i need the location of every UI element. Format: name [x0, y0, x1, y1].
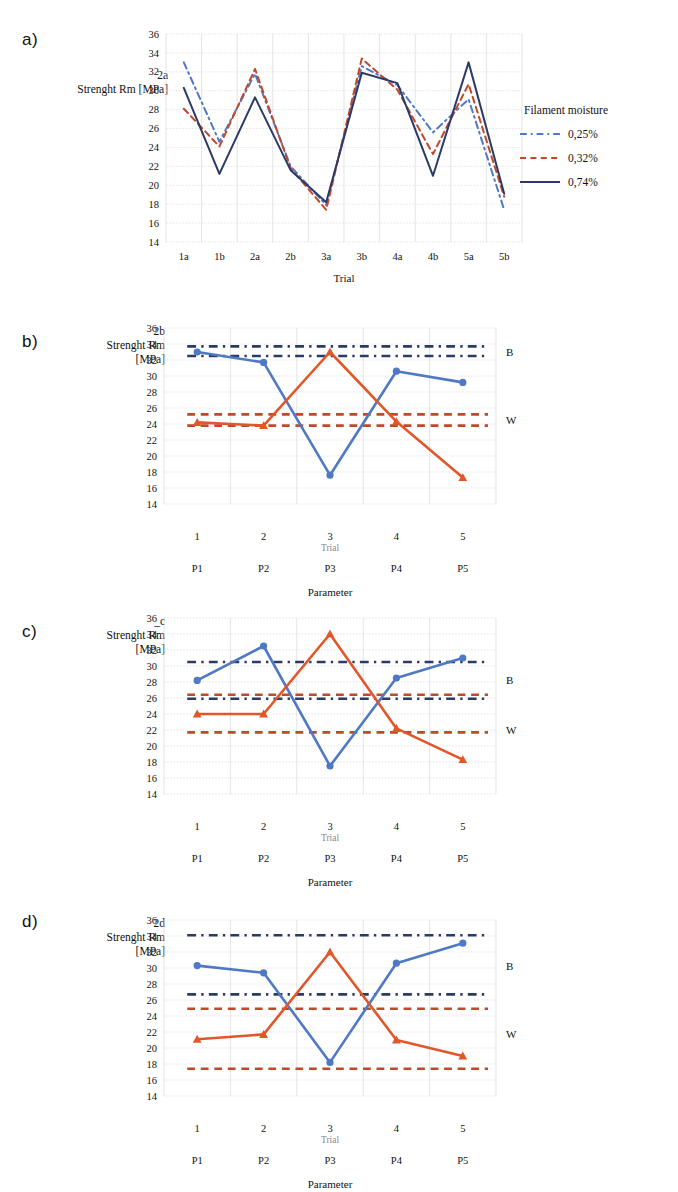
y-tick-label: 18 [149, 199, 160, 210]
legend-swatch-line [518, 152, 562, 164]
figure-panel-a: a) 2aStrenght Rm [MPa] 14161820222426283… [0, 0, 678, 310]
data-point-marker [260, 359, 267, 366]
x-tick-label-secondary: P3 [324, 1155, 335, 1166]
legend-items: 0,25%0,32%0,74% [518, 128, 670, 188]
y-tick-label: 14 [147, 499, 158, 510]
legend-item-label: 0,25% [568, 128, 598, 140]
panel-a-chart: 1416182022242628303234361a1b2a2b3a3b4a4b… [130, 28, 530, 302]
x-tick-label-secondary: P4 [391, 853, 403, 864]
x-axis-secondary-title: Trial [321, 1135, 339, 1145]
data-point-marker [326, 1059, 333, 1066]
annotation-label-B: B [506, 346, 513, 358]
y-tick-label: 20 [147, 1043, 158, 1054]
y-tick-label: 32 [147, 645, 158, 656]
x-tick-label: 1 [195, 531, 200, 542]
x-tick-label: 4a [392, 251, 402, 262]
x-tick-label: 4 [394, 531, 400, 542]
data-point-marker [326, 948, 335, 956]
x-tick-label-secondary: P3 [324, 563, 335, 574]
y-tick-label: 32 [149, 66, 160, 77]
y-tick-label: 22 [147, 725, 158, 736]
legend-item-032%: 0,32% [518, 152, 670, 164]
data-point-marker [393, 674, 400, 681]
y-tick-label: 14 [147, 789, 158, 800]
y-tick-label: 30 [147, 963, 158, 974]
y-tick-label: 34 [147, 931, 158, 942]
x-tick-label-secondary: P5 [457, 1155, 468, 1166]
x-tick-label-secondary: P3 [324, 853, 335, 864]
y-tick-label: 26 [147, 403, 158, 414]
panel-d-chart: 141618202224262830323436BW12345TrialP1P2… [128, 914, 548, 1192]
legend-swatch-line [518, 128, 562, 140]
x-tick-label: 3 [327, 531, 332, 542]
y-tick-label: 36 [147, 915, 158, 926]
data-point-marker [326, 762, 333, 769]
panel-a-letter: a) [22, 30, 38, 50]
x-axis-title: Parameter [308, 586, 353, 598]
figure-panel-d: d) 2dStrenght Rm[MPa] 141618202224262830… [0, 890, 678, 1180]
legend-item-label: 0,32% [568, 152, 598, 164]
x-tick-label: 2 [261, 1123, 266, 1134]
annotation-label-W: W [506, 1028, 517, 1040]
y-tick-label: 32 [147, 355, 158, 366]
y-tick-label: 20 [147, 741, 158, 752]
x-tick-label: 2b [285, 251, 296, 262]
x-tick-label: 4 [394, 821, 400, 832]
annotation-label-B: B [506, 674, 513, 686]
data-point-marker [194, 348, 201, 355]
y-tick-label: 16 [147, 1075, 158, 1086]
y-tick-label: 22 [147, 1027, 158, 1038]
x-tick-label: 4b [428, 251, 439, 262]
x-tick-label: 2 [261, 531, 266, 542]
data-point-marker [260, 969, 267, 976]
series-line-B [197, 943, 463, 1062]
y-tick-label: 16 [149, 218, 160, 229]
x-axis-secondary-title: Trial [321, 833, 339, 843]
x-tick-label-secondary: P4 [391, 563, 403, 574]
figure-panel-b: b) 2bStrenght Rm[MPa] 141618202224262830… [0, 310, 678, 600]
y-tick-label: 28 [149, 104, 160, 115]
x-tick-label-secondary: P2 [258, 563, 269, 574]
panel-c-chart: 141618202224262830323436BW12345TrialP1P2… [128, 612, 548, 894]
data-point-marker [194, 677, 201, 684]
y-tick-label: 28 [147, 979, 158, 990]
y-tick-label: 26 [147, 995, 158, 1006]
legend-item-025%: 0,25% [518, 128, 670, 140]
x-tick-label-secondary: P1 [192, 1155, 203, 1166]
x-tick-label-secondary: P2 [258, 853, 269, 864]
x-tick-label: 5a [464, 251, 474, 262]
x-axis-title: Parameter [308, 876, 353, 888]
y-tick-label: 30 [149, 85, 160, 96]
y-tick-label: 14 [147, 1091, 158, 1102]
series-line-B [197, 646, 463, 766]
x-tick-label: 3 [327, 1123, 332, 1134]
y-tick-label: 26 [147, 693, 158, 704]
y-tick-label: 18 [147, 757, 158, 768]
x-tick-label: 1a [179, 251, 189, 262]
y-tick-label: 34 [147, 629, 158, 640]
y-tick-label: 20 [149, 180, 160, 191]
data-point-marker [326, 630, 335, 638]
legend-swatch-line [518, 176, 562, 188]
y-tick-label: 28 [147, 677, 158, 688]
y-tick-label: 30 [147, 371, 158, 382]
x-tick-label: 2 [261, 821, 266, 832]
data-point-marker [194, 962, 201, 969]
y-tick-label: 26 [149, 123, 160, 134]
x-tick-label: 5b [499, 251, 510, 262]
annotation-label-W: W [506, 724, 517, 736]
y-tick-label: 16 [147, 773, 158, 784]
y-tick-label: 34 [149, 48, 160, 59]
panel-a-legend: Filament moisture 0,25%0,32%0,74% [518, 104, 670, 200]
y-tick-label: 24 [149, 142, 160, 153]
series-line-W [197, 952, 463, 1056]
y-tick-label: 16 [147, 483, 158, 494]
y-tick-label: 24 [147, 709, 158, 720]
y-tick-label: 14 [149, 237, 160, 248]
y-tick-label: 32 [147, 947, 158, 958]
y-tick-label: 36 [147, 613, 158, 624]
x-tick-label: 5 [460, 821, 465, 832]
x-tick-label: 3b [357, 251, 368, 262]
figure-panel-c: c) _cStrenght Rm[MPa] 141618202224262830… [0, 600, 678, 890]
x-tick-label: 2a [250, 251, 260, 262]
